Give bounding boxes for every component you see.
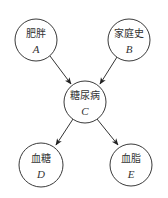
node-b-label: 家庭史 [114,27,144,39]
node-a-obesity: 肥胖 A [15,19,57,61]
bayesian-network-diagram: 肥胖 A 家庭史 B 糖尿病 C 血糖 D 血脂 E [0,0,168,198]
node-d-label: 血糖 [31,152,51,164]
node-b-family-history: 家庭史 B [108,19,150,61]
node-a-label: 肥胖 [26,28,46,39]
node-d-var: D [36,168,45,180]
edge-c-to-d [56,119,73,145]
node-e-blood-lipid: 血脂 E [110,144,152,186]
edge-c-to-e [97,119,118,145]
node-d-circle [19,143,63,187]
node-d-blood-sugar: 血糖 D [19,143,63,187]
node-e-label: 血脂 [121,152,141,164]
node-e-var: E [127,168,135,180]
node-b-var: B [126,43,133,55]
node-c-diabetes: 糖尿病 C [64,81,106,123]
edge-b-to-c [100,57,117,84]
node-a-var: A [32,43,40,55]
edge-a-to-c [50,56,71,84]
node-c-var: C [81,105,89,117]
node-c-label: 糖尿病 [70,89,100,101]
